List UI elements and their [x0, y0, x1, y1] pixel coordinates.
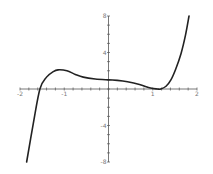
x-tick-label: 2 — [195, 90, 199, 97]
y-tick-label: -8 — [101, 158, 107, 165]
tick-labels: -2-11284-4-8 — [17, 12, 199, 165]
y-tick-label: 8 — [103, 12, 107, 19]
x-tick-label: 1 — [151, 90, 155, 97]
x-tick-label: -2 — [17, 90, 23, 97]
y-tick-label: 4 — [103, 49, 107, 56]
x-tick-label: -1 — [61, 90, 67, 97]
function-plot: -2-11284-4-8 — [0, 0, 213, 174]
y-tick-label: -4 — [101, 122, 107, 129]
